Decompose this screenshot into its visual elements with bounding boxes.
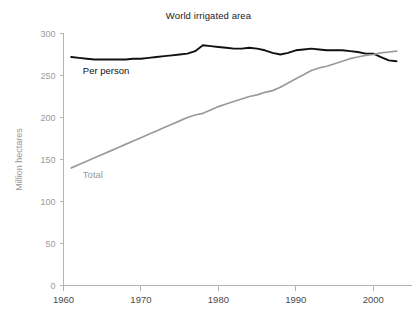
data-series-group — [71, 45, 396, 168]
x-tick-label: 1960 — [53, 294, 74, 305]
y-axis: 050100150200250300 Million hectares — [14, 29, 64, 291]
y-tick-label: 250 — [40, 71, 55, 81]
y-tick-label: 300 — [40, 29, 55, 39]
series-inline-labels: Per personTotal — [83, 65, 129, 180]
x-axis-ticks: 19601970198019902000 — [53, 286, 384, 305]
chart-plot-area: 050100150200250300 Million hectares 1960… — [0, 0, 417, 316]
series-label-total: Total — [83, 169, 103, 180]
y-axis-ticks: 050100150200250300 — [40, 29, 63, 291]
y-axis-title: Million hectares — [14, 128, 24, 191]
chart-container: World irrigated area 050100150200250300 … — [0, 0, 417, 316]
x-tick-label: 1980 — [208, 294, 229, 305]
y-tick-label: 100 — [40, 197, 55, 207]
x-tick-label: 2000 — [363, 294, 384, 305]
x-tick-label: 1970 — [130, 294, 151, 305]
y-tick-label: 0 — [50, 281, 55, 291]
y-tick-label: 50 — [45, 239, 55, 249]
x-axis: 19601970198019902000 — [53, 286, 412, 305]
y-tick-label: 150 — [40, 155, 55, 165]
y-tick-label: 200 — [40, 113, 55, 123]
x-tick-label: 1990 — [285, 294, 306, 305]
series-label-per-person: Per person — [83, 65, 129, 76]
